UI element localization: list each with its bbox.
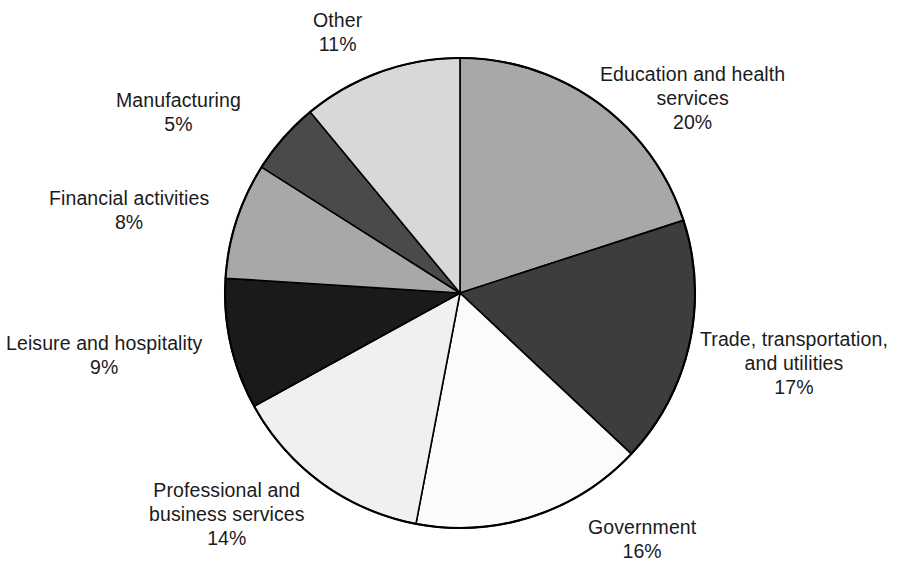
pie-label-professional-line2: business services <box>149 502 305 526</box>
pie-label-government-line1: Government <box>588 515 696 539</box>
pie-label-other-value: 11% <box>313 32 362 56</box>
pie-label-other-line1: Other <box>313 8 362 32</box>
pie-label-professional-line1: Professional and <box>149 478 305 502</box>
pie-label-financial-line1: Financial activities <box>49 186 209 210</box>
pie-label-leisure-value: 9% <box>6 355 202 379</box>
pie-label-manufacturing-value: 5% <box>116 112 241 136</box>
pie-label-manufacturing: Manufacturing 5% <box>116 88 241 136</box>
pie-label-other: Other 11% <box>313 8 362 56</box>
pie-chart: Education and health services 20% Trade,… <box>0 0 901 563</box>
pie-label-trade-transportation-and-utilities: Trade, transportation, and utilities 17% <box>700 327 888 399</box>
pie-label-professional-and-business-services: Professional and business services 14% <box>149 478 305 550</box>
pie-label-trade-line1: Trade, transportation, <box>700 327 888 351</box>
pie-label-trade-value: 17% <box>700 375 888 399</box>
pie-label-government: Government 16% <box>588 515 696 563</box>
pie-label-financial-activities: Financial activities 8% <box>49 186 209 234</box>
pie-label-leisure-and-hospitality: Leisure and hospitality 9% <box>6 331 202 379</box>
pie-label-leisure-line1: Leisure and hospitality <box>6 331 202 355</box>
pie-label-education-line2: services <box>600 86 785 110</box>
pie-label-education-value: 20% <box>600 110 785 134</box>
pie-label-education-line1: Education and health <box>600 62 785 86</box>
pie-label-trade-line2: and utilities <box>700 351 888 375</box>
pie-label-manufacturing-line1: Manufacturing <box>116 88 241 112</box>
pie-label-financial-value: 8% <box>49 210 209 234</box>
pie-label-government-value: 16% <box>588 539 696 563</box>
pie-label-professional-value: 14% <box>149 526 305 550</box>
pie-label-education-and-health-services: Education and health services 20% <box>600 62 785 134</box>
